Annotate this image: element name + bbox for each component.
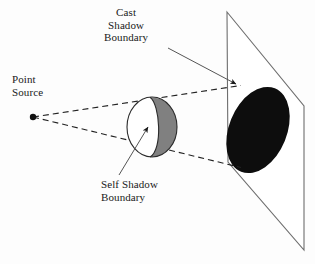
- diagram-canvas: [0, 0, 315, 264]
- shadow-geometry-diagram: Cast Shadow Boundary Point Source Self S…: [0, 0, 315, 264]
- point-source-label: Point Source: [12, 73, 43, 98]
- point-source-dot: [30, 114, 36, 120]
- cast-shadow-boundary-label: Cast Shadow Boundary: [104, 6, 148, 44]
- cast-shadow-leader-line: [168, 48, 236, 84]
- self-shadow-boundary-label: Self Shadow Boundary: [101, 178, 158, 203]
